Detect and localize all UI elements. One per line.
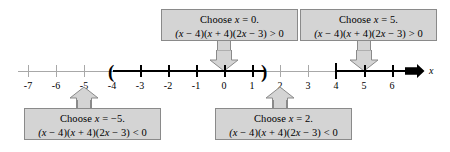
- tick-label-1: 1: [242, 80, 262, 91]
- tick--7: [28, 65, 29, 77]
- tick-2: [280, 65, 281, 77]
- axis-label-x: x: [429, 65, 433, 76]
- tick-label-0: 0: [214, 80, 234, 91]
- callout-choose-x-5: Choose x = 5. (x − 4)(x + 4)(2x − 3) > 0: [300, 9, 437, 41]
- callout-choose-x-minus-5-line1: Choose x = −5.: [25, 112, 160, 126]
- callout-choose-x-2: Choose x = 2. (x − 4)(x + 4)(2x − 3) < 0: [215, 108, 352, 140]
- tick-label--1: -1: [186, 80, 206, 91]
- tick-label--3: -3: [130, 80, 150, 91]
- interval-1-right-open-paren: ): [261, 62, 267, 81]
- figure-canvas: Choose x = 0. (x − 4)(x + 4)(2x − 3) > 0…: [0, 0, 450, 152]
- tick-label-5: 5: [354, 80, 374, 91]
- callout-choose-x-minus-5-line2: (x − 4)(x + 4)(2x − 3) < 0: [25, 126, 160, 140]
- shaded-interval-2: [336, 70, 411, 72]
- tick-label-3: 3: [298, 80, 318, 91]
- interval-1-left-open-paren: (: [108, 62, 114, 81]
- callout-choose-x-0-line1: Choose x = 0.: [162, 13, 297, 27]
- callout-choose-x-0: Choose x = 0. (x − 4)(x + 4)(2x − 3) > 0: [161, 9, 298, 41]
- callout-choose-x-2-line2: (x − 4)(x + 4)(2x − 3) < 0: [216, 126, 351, 140]
- callout-choose-x-2-line1: Choose x = 2.: [216, 112, 351, 126]
- tick-3: [308, 65, 309, 77]
- callout-choose-x-5-line2: (x − 4)(x + 4)(2x − 3) > 0: [301, 27, 436, 41]
- tick-label--2: -2: [158, 80, 178, 91]
- tick--5: [84, 65, 85, 77]
- tick-label-6: 6: [382, 80, 402, 91]
- callout-choose-x-0-line2: (x − 4)(x + 4)(2x − 3) > 0: [162, 27, 297, 41]
- number-line-arrowhead-icon: [405, 64, 425, 82]
- tick-label-4: 4: [326, 80, 346, 91]
- tick-label--6: -6: [46, 80, 66, 91]
- tick-label--7: -7: [18, 80, 38, 91]
- shaded-interval-1: [113, 70, 266, 72]
- callout-choose-x-minus-5: Choose x = −5. (x − 4)(x + 4)(2x − 3) < …: [24, 108, 161, 140]
- tick-label--4: -4: [102, 80, 122, 91]
- callout-choose-x-5-line1: Choose x = 5.: [301, 13, 436, 27]
- tick--6: [56, 65, 57, 77]
